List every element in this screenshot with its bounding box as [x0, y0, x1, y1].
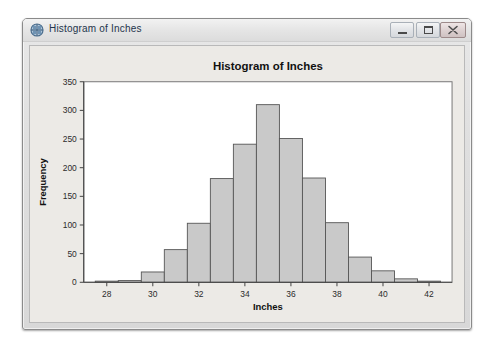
y-tick-label: 50 — [67, 249, 77, 259]
histogram-bar — [187, 223, 210, 282]
y-tick-label: 300 — [63, 105, 77, 115]
histogram-bar — [256, 105, 279, 283]
window-title: Histogram of Inches — [49, 23, 142, 34]
maximize-button[interactable] — [416, 22, 440, 38]
histogram-bar — [371, 271, 394, 282]
histogram-bar — [210, 179, 233, 283]
close-button[interactable] — [440, 22, 466, 38]
histogram-bar — [164, 250, 187, 283]
window-titlebar[interactable]: Histogram of Inches — [23, 19, 471, 42]
x-tick-label: 30 — [148, 289, 158, 299]
x-tick-label: 42 — [424, 289, 434, 299]
y-tick-label: 350 — [63, 77, 77, 87]
maximize-icon — [417, 23, 439, 37]
close-icon — [441, 23, 465, 37]
histogram-chart: Histogram of Inches 05010015020025030035… — [30, 46, 464, 322]
y-tick-label: 150 — [63, 191, 77, 201]
plot-window-icon — [30, 23, 44, 37]
histogram-bar — [348, 257, 371, 282]
histogram-bar — [325, 223, 348, 283]
y-tick-label: 0 — [72, 277, 77, 287]
histogram-bar — [279, 138, 302, 282]
histogram-bar — [141, 272, 164, 282]
x-tick-label: 36 — [286, 289, 296, 299]
x-tick-label: 38 — [332, 289, 342, 299]
minimize-icon — [391, 23, 413, 37]
x-tick-label: 40 — [378, 289, 388, 299]
histogram-bar — [233, 144, 256, 282]
x-tick-label: 34 — [240, 289, 250, 299]
chart-title: Histogram of Inches — [213, 60, 323, 72]
histogram-bar — [302, 178, 325, 282]
histogram-svg: Histogram of Inches 05010015020025030035… — [30, 46, 464, 322]
y-tick-label: 250 — [63, 134, 77, 144]
x-axis-title: Inches — [253, 301, 283, 312]
window-client-area: Histogram of Inches 05010015020025030035… — [29, 45, 465, 323]
y-tick-label: 100 — [63, 220, 77, 230]
y-axis-title: Frequency — [37, 157, 48, 205]
minimize-button[interactable] — [390, 22, 414, 38]
y-tick-label: 200 — [63, 163, 77, 173]
x-tick-label: 28 — [102, 289, 112, 299]
x-tick-label: 32 — [194, 289, 204, 299]
plot-window: Histogram of Inches Histogram of Inches — [22, 18, 472, 330]
